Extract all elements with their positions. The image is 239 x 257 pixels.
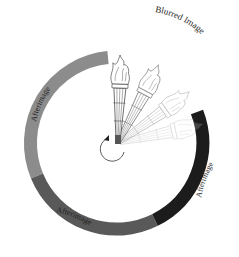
torch-base <box>115 135 121 144</box>
ring-segment-light <box>30 58 108 177</box>
diagram-canvas: Blurred Image Afterimage Afterimage Afte… <box>0 0 239 257</box>
afterimage-diagram: Blurred Image Afterimage Afterimage Afte… <box>0 0 239 257</box>
torch-sequence <box>109 55 206 152</box>
label-blurred-image: Blurred Image <box>155 4 207 36</box>
ring-segment-mid <box>37 176 155 229</box>
